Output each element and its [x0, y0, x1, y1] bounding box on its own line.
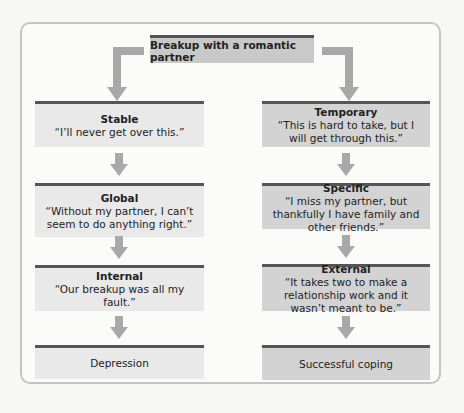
- node-successful-coping: Successful coping: [262, 345, 430, 380]
- down-arrow-icon: [336, 316, 356, 340]
- node-internal: Internal “Our breakup was all my fault.”: [35, 265, 204, 311]
- node-external: External “It takes two to make a relatio…: [262, 264, 430, 311]
- down-arrow-icon: [109, 316, 129, 340]
- elbow-arrow-right-icon: [320, 45, 366, 103]
- node-quote: “It takes two to make a relationship wor…: [268, 276, 424, 315]
- node-title: Successful coping: [299, 358, 393, 371]
- node-quote: “I miss my partner, but thankfully I hav…: [268, 195, 424, 234]
- node-quote: “Our breakup was all my fault.”: [41, 283, 198, 309]
- node-depression: Depression: [35, 345, 204, 379]
- node-temporary: Temporary “This is hard to take, but I w…: [262, 101, 430, 147]
- root-node: Breakup with a romantic partner: [150, 35, 314, 63]
- node-title: Depression: [90, 357, 149, 370]
- node-quote: “This is hard to take, but I will get th…: [268, 119, 424, 145]
- node-quote: “Without my partner, I can’t seem to do …: [41, 205, 198, 231]
- node-title: External: [321, 263, 370, 276]
- node-title: Global: [101, 192, 139, 205]
- down-arrow-icon: [336, 235, 356, 259]
- elbow-arrow-left-icon: [100, 45, 146, 103]
- node-title: Internal: [96, 270, 143, 283]
- down-arrow-icon: [336, 153, 356, 177]
- down-arrow-icon: [109, 236, 129, 260]
- node-title: Specific: [323, 182, 369, 195]
- down-arrow-icon: [109, 153, 129, 177]
- root-label: Breakup with a romantic partner: [150, 39, 314, 63]
- node-specific: Specific “I miss my partner, but thankfu…: [262, 183, 430, 229]
- node-stable: Stable “I’ll never get over this.”: [35, 101, 204, 147]
- node-title: Stable: [101, 113, 139, 126]
- node-title: Temporary: [315, 106, 378, 119]
- node-global: Global “Without my partner, I can’t seem…: [35, 183, 204, 237]
- node-quote: “I’ll never get over this.”: [55, 126, 185, 139]
